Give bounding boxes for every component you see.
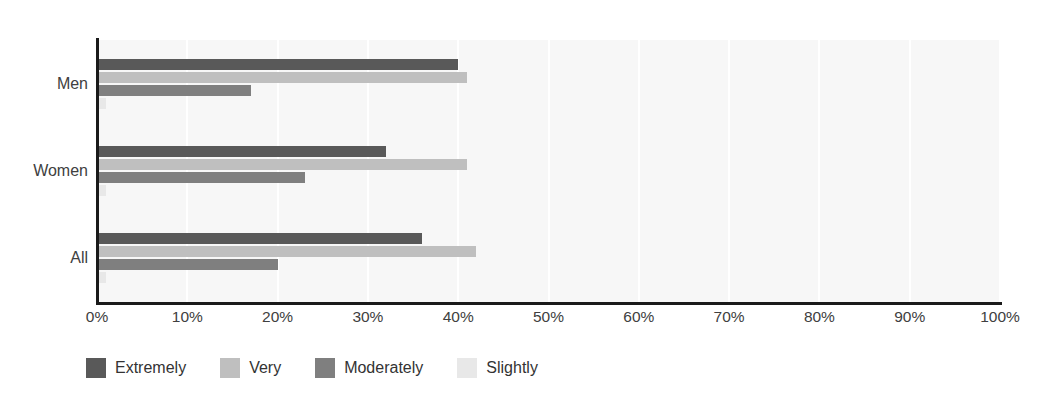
gridline xyxy=(548,40,550,302)
x-axis-line xyxy=(96,302,1002,305)
x-tick-label: 20% xyxy=(238,308,318,326)
x-tick-label: 50% xyxy=(509,308,589,326)
gridline xyxy=(728,40,730,302)
bar xyxy=(97,259,278,270)
y-axis-line xyxy=(96,38,99,304)
x-tick-label: 70% xyxy=(689,308,769,326)
x-tick-label: 90% xyxy=(870,308,950,326)
bar xyxy=(97,85,251,96)
legend-item-slightly[interactable]: Slightly xyxy=(457,358,538,378)
legend-item-extremely[interactable]: Extremely xyxy=(86,358,186,378)
bar-chart-figure: MenWomenAll 0%10%20%30%40%50%60%70%80%90… xyxy=(0,0,1054,398)
x-tick-label: 0% xyxy=(57,308,137,326)
y-axis-labels: MenWomenAll xyxy=(0,40,88,302)
legend-item-moderately[interactable]: Moderately xyxy=(315,358,423,378)
y-axis-label-all: All xyxy=(2,249,88,267)
bar xyxy=(97,59,458,70)
bar xyxy=(97,72,467,83)
y-axis-label-men: Men xyxy=(2,75,88,93)
bar xyxy=(97,233,422,244)
x-tick-label: 10% xyxy=(147,308,227,326)
x-tick-label: 60% xyxy=(599,308,679,326)
legend-swatch-icon xyxy=(315,358,335,378)
bar xyxy=(97,159,467,170)
x-tick-label: 30% xyxy=(328,308,408,326)
y-axis-label-women: Women xyxy=(2,162,88,180)
legend-label: Moderately xyxy=(344,359,423,377)
plot-area xyxy=(97,40,1000,302)
gridline xyxy=(818,40,820,302)
gridline xyxy=(999,40,1001,302)
x-tick-label: 100% xyxy=(960,308,1040,326)
legend-swatch-icon xyxy=(86,358,106,378)
legend-item-very[interactable]: Very xyxy=(220,358,281,378)
x-tick-label: 40% xyxy=(418,308,498,326)
chart-legend: ExtremelyVeryModeratelySlightly xyxy=(86,355,572,381)
bar xyxy=(97,246,476,257)
legend-swatch-icon xyxy=(220,358,240,378)
legend-label: Extremely xyxy=(115,359,186,377)
gridline xyxy=(638,40,640,302)
chart-title xyxy=(6,0,1046,8)
x-axis-tick-labels: 0%10%20%30%40%50%60%70%80%90%100% xyxy=(0,308,1054,334)
bar xyxy=(97,172,305,183)
legend-swatch-icon xyxy=(457,358,477,378)
legend-label: Slightly xyxy=(486,359,538,377)
x-tick-label: 80% xyxy=(779,308,859,326)
legend-label: Very xyxy=(249,359,281,377)
gridline xyxy=(909,40,911,302)
bar xyxy=(97,146,386,157)
